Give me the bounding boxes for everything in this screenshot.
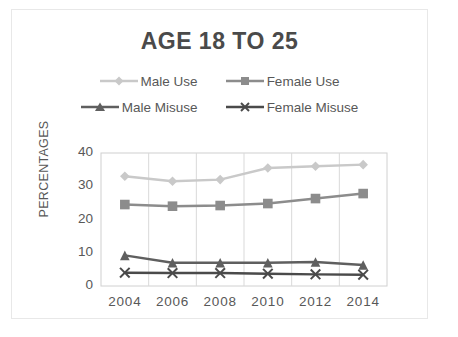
y-tick-label: 20 [63, 211, 93, 226]
plot-svg [12, 10, 429, 320]
chart-frame: AGE 18 TO 25 Male Use [11, 9, 428, 319]
x-tick-label: 2006 [148, 294, 198, 309]
x-tick-label: 2014 [338, 294, 388, 309]
plot-area: PERCENTAGES 0102030402004200620082010201… [12, 10, 427, 318]
x-tick-label: 2012 [291, 294, 341, 309]
y-tick-label: 10 [63, 244, 93, 259]
y-tick-label: 30 [63, 177, 93, 192]
x-tick-label: 2010 [243, 294, 293, 309]
y-tick-label: 0 [63, 277, 93, 292]
y-tick-label: 40 [63, 144, 93, 159]
x-tick-label: 2004 [100, 294, 150, 309]
x-tick-label: 2008 [195, 294, 245, 309]
